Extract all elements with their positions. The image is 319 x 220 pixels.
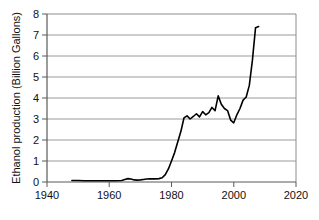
y-tick-labels: 8 7 6 5 4 3 2 1 0 [33, 8, 39, 188]
y-tick-label-1: 1 [33, 155, 39, 167]
y-tick-label-6: 6 [33, 50, 39, 62]
chart-background [0, 0, 319, 220]
y-tick-label-0: 0 [33, 176, 39, 188]
chart-svg: 8 7 6 5 4 3 2 1 0 1940 1960 1980 2000 20… [0, 0, 319, 220]
x-tick-label-1940: 1940 [35, 189, 59, 201]
x-tick-label-1980: 1980 [159, 189, 183, 201]
y-axis-title: Ethanol production (Billion Gallons) [10, 12, 22, 184]
y-tick-label-4: 4 [33, 92, 39, 104]
y-tick-label-7: 7 [33, 29, 39, 41]
x-tick-label-1960: 1960 [97, 189, 121, 201]
y-tick-label-3: 3 [33, 113, 39, 125]
ethanol-production-chart: 8 7 6 5 4 3 2 1 0 1940 1960 1980 2000 20… [0, 0, 319, 220]
y-tick-label-2: 2 [33, 134, 39, 146]
y-tick-label-8: 8 [33, 8, 39, 20]
x-tick-label-2000: 2000 [222, 189, 246, 201]
x-tick-label-2020: 2020 [284, 189, 308, 201]
y-tick-label-5: 5 [33, 71, 39, 83]
